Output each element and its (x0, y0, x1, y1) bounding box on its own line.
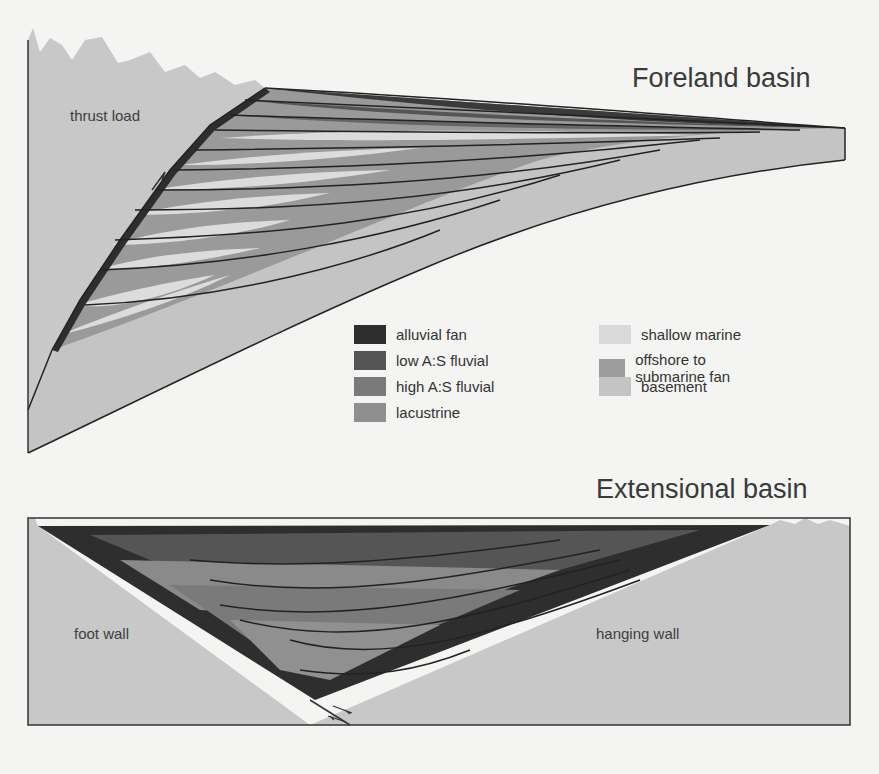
legend-item-high-as-fluvial: high A:S fluvial (354, 377, 494, 396)
extensional-basin-section (28, 518, 850, 725)
swatch-lacustrine (354, 403, 386, 422)
swatch-offshore (599, 359, 625, 378)
legend-item-shallow-marine: shallow marine (599, 325, 741, 344)
swatch-shallow-marine (599, 325, 631, 344)
swatch-alluvial-fan (354, 325, 386, 344)
legend-item-basement: basement (599, 377, 707, 396)
foot-wall-label: foot wall (74, 625, 129, 642)
swatch-basement (599, 377, 631, 396)
thrust-load-label: thrust load (70, 107, 140, 124)
extensional-basin-title: Extensional basin (596, 474, 808, 505)
swatch-low-as-fluvial (354, 351, 386, 370)
foreland-basin-title: Foreland basin (632, 63, 811, 94)
legend-item-low-as-fluvial: low A:S fluvial (354, 351, 489, 370)
swatch-high-as-fluvial (354, 377, 386, 396)
legend-item-alluvial-fan: alluvial fan (354, 325, 467, 344)
hanging-wall-label: hanging wall (596, 625, 679, 642)
legend: alluvial fan low A:S fluvial high A:S fl… (354, 325, 774, 425)
legend-item-lacustrine: lacustrine (354, 403, 460, 422)
